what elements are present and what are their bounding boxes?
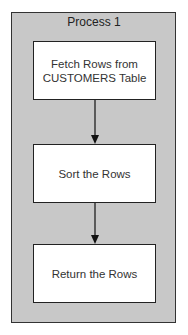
arrow-2-to-3-icon <box>91 203 99 244</box>
flow-arrows <box>0 0 188 335</box>
arrow-1-to-2-icon <box>91 100 99 144</box>
